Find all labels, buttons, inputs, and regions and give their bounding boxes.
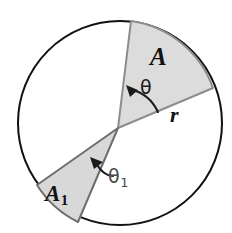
sector-A1-label: A1 [45,182,68,208]
sector-A-label: A [150,44,167,69]
theta1-label: θ1 [108,167,128,189]
theta1-label-base: θ [108,165,120,187]
sector-A1-label-base: A [45,181,60,206]
theta-label: θ [140,78,152,97]
radius-label: r [170,104,179,126]
theta1-label-subscript: 1 [120,175,128,190]
sector-A1-label-subscript: 1 [61,192,69,208]
figure-canvas [0,0,232,233]
circle-sector-figure: A A1 r θ θ1 [0,0,232,233]
